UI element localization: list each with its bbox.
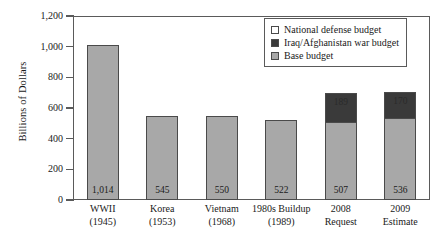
legend-item-war-budget: Iraq/Afghanistan war budget: [271, 36, 399, 49]
bar-group[interactable]: 522: [265, 120, 297, 200]
bar-value-label: 536: [385, 185, 415, 195]
bar-group[interactable]: 1,014: [87, 45, 119, 200]
legend-label: Iraq/Afghanistan war budget: [284, 37, 399, 48]
legend-swatch-icon-war: [271, 39, 279, 47]
y-axis-tick-label: 0: [3, 195, 63, 205]
bar-value-label: 507: [326, 185, 356, 195]
legend-label: National defense budget: [284, 24, 381, 35]
bar-segment-base-budget[interactable]: 507: [325, 122, 357, 200]
bar-segment-base-budget[interactable]: 545: [146, 116, 178, 200]
bar-group[interactable]: 550: [206, 116, 238, 200]
bar-segment-war-budget[interactable]: 189: [325, 93, 357, 122]
defense-budget-stacked-bar-chart: Billions of Dollars 02004006008001,0001,…: [0, 0, 443, 246]
legend-label: Base budget: [284, 50, 333, 61]
bar-group[interactable]: 189507: [325, 93, 357, 200]
bar-segment-base-budget[interactable]: 522: [265, 120, 297, 200]
legend-item-base-budget: Base budget: [271, 49, 399, 62]
bar-segment-base-budget[interactable]: 536: [384, 118, 416, 200]
y-axis-tick-label: 400: [3, 134, 63, 144]
bar-value-label: 522: [266, 185, 296, 195]
y-axis-tick-label: 600: [3, 103, 63, 113]
y-axis-tick-label: 1,000: [3, 42, 63, 52]
bar-value-label: 1,014: [88, 185, 118, 195]
y-axis-tick-label: 1,200: [3, 11, 63, 21]
legend-item-national-defense-budget: National defense budget: [271, 23, 399, 36]
legend-swatch-icon-national: [271, 26, 279, 34]
bar-segment-war-budget[interactable]: 170: [384, 92, 416, 118]
bar-value-label: 189: [326, 97, 356, 107]
bar-value-label: 170: [385, 96, 415, 106]
bar-group[interactable]: 545: [146, 116, 178, 200]
bar-value-label: 550: [207, 185, 237, 195]
bar-segment-base-budget[interactable]: 1,014: [87, 45, 119, 200]
chart-legend: National defense budget Iraq/Afghanistan…: [264, 18, 407, 67]
bar-value-label: 545: [147, 185, 177, 195]
bar-segment-base-budget[interactable]: 550: [206, 116, 238, 200]
legend-swatch-icon-base: [271, 52, 279, 60]
x-axis-category-label: 2009Estimate: [354, 203, 443, 228]
bar-group[interactable]: 170536: [384, 92, 416, 200]
y-axis-tick-label: 200: [3, 164, 63, 174]
y-axis-tick-label: 800: [3, 72, 63, 82]
